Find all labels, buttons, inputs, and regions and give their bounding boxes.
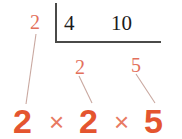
factor-value-1: 2 xyxy=(13,104,32,138)
factor-value-2: 2 xyxy=(79,104,98,138)
factorization-diagram: 4 10 2 2 5 2 × 2 × 5 xyxy=(0,0,182,139)
annotation-digit-right: 5 xyxy=(131,55,141,75)
annotation-digit-left: 2 xyxy=(30,12,40,32)
factor-value-3: 5 xyxy=(144,104,163,138)
multiplication-sign-1: × xyxy=(49,109,64,135)
connector-line-middle xyxy=(79,76,92,103)
dividend-value-second: 10 xyxy=(111,13,132,34)
division-bracket-horizontal-line xyxy=(55,41,161,43)
annotation-digit-middle: 2 xyxy=(75,57,85,77)
dividend-value-first: 4 xyxy=(64,13,75,34)
multiplication-sign-2: × xyxy=(114,109,129,135)
connector-line-right xyxy=(136,74,155,103)
division-bracket-vertical-line xyxy=(55,3,57,43)
connector-line-left xyxy=(26,34,36,104)
